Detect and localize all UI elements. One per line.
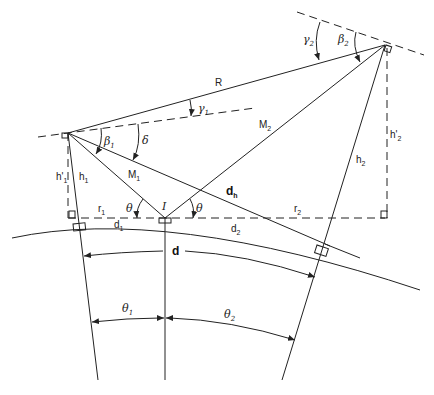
- angle-arc-theta-left: [137, 199, 143, 218]
- angle-arc-gamma1: [190, 100, 191, 116]
- earth-surface-arc: [12, 229, 420, 290]
- ray-M2: [165, 45, 385, 218]
- angle-arc-theta-right: [190, 199, 194, 218]
- label-gamma2: γ2: [303, 33, 315, 48]
- label-h1: h1: [79, 171, 89, 184]
- label-r2: r2: [294, 203, 301, 216]
- direct-ray-R: [68, 45, 385, 133]
- two-ray-diagram: R γ1 β1 δ γ2 β2 M2 M1 dh h'1 h1 h'2 h2 θ…: [0, 0, 434, 395]
- label-d1: d1: [114, 219, 124, 232]
- label-I: I: [161, 200, 167, 213]
- label-theta-right: θ: [196, 202, 203, 215]
- label-r1: r1: [98, 203, 105, 216]
- label-beta1: β1: [103, 135, 115, 150]
- angle-arc-beta1: [96, 128, 101, 154]
- tangent-right-surface: [325, 244, 360, 258]
- label-delta: δ: [142, 134, 149, 147]
- tangent-t2-dashed: [297, 12, 424, 55]
- right-angle-t2: [384, 45, 392, 53]
- label-theta-left: θ: [126, 202, 133, 215]
- arc-theta1: [92, 318, 160, 322]
- label-M1: M1: [128, 169, 140, 182]
- label-h1-prime: h'1: [56, 171, 67, 184]
- label-M2: M2: [259, 119, 271, 132]
- label-gamma1: γ1: [198, 102, 209, 117]
- label-beta2: β2: [337, 33, 349, 48]
- label-d2: d2: [231, 223, 241, 236]
- angle-arc-delta: [133, 124, 139, 160]
- label-dh: dh: [226, 184, 238, 199]
- label-theta2: θ2: [224, 308, 236, 323]
- angle-arc-beta2: [355, 32, 360, 62]
- angle-arc-gamma2: [316, 22, 320, 60]
- arc-d-left: [84, 251, 163, 256]
- arc-d-right: [185, 251, 315, 277]
- right-angle-right-foot: [381, 211, 387, 218]
- right-angle-left-foot: [69, 211, 75, 218]
- label-h2-prime: h'2: [390, 129, 401, 142]
- label-d: d: [172, 244, 179, 258]
- label-R: R: [215, 77, 222, 88]
- label-theta1: θ1: [122, 302, 133, 317]
- label-h2: h2: [356, 154, 366, 167]
